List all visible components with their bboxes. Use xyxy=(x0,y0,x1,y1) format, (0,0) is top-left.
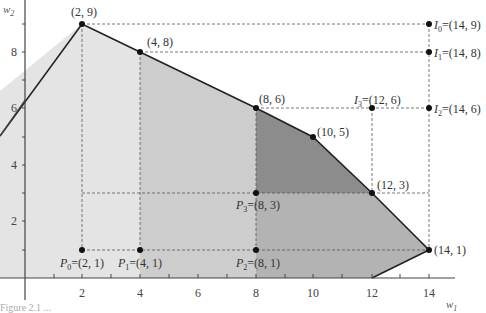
nadir-label-p2: P2=(8, 1) xyxy=(235,256,280,272)
y-tick-label: 6 xyxy=(11,101,17,115)
x-tick-label: 4 xyxy=(137,286,143,300)
ideal-label-i3: I3=(12, 6) xyxy=(353,93,401,109)
vertex-point xyxy=(369,190,375,196)
region-medium xyxy=(256,193,429,278)
region-lightest xyxy=(0,24,140,278)
vertex-label: (4, 8) xyxy=(147,35,173,49)
vertex-point xyxy=(137,49,143,55)
y-tick-label: 2 xyxy=(11,214,17,228)
x-tick-label: 12 xyxy=(366,286,378,300)
region-light xyxy=(140,52,256,278)
x-tick-label: 8 xyxy=(253,286,259,300)
nadir-point xyxy=(253,190,259,196)
ideal-point xyxy=(426,21,432,27)
x-tick-label: 14 xyxy=(423,286,435,300)
vertex-label: (12, 3) xyxy=(377,178,409,192)
y-tick-label: 4 xyxy=(11,158,17,172)
vertex-label: (10, 5) xyxy=(317,125,349,139)
vertex-label: (8, 6) xyxy=(259,92,285,106)
ideal-label-i0: I0=(14, 9) xyxy=(433,18,481,34)
vertex-label: (2, 9) xyxy=(71,5,97,19)
vertex-point xyxy=(426,247,432,253)
vertex-point xyxy=(310,134,316,140)
nadir-point xyxy=(79,247,85,253)
y-tick-label: 8 xyxy=(11,45,17,59)
nadir-point xyxy=(253,247,259,253)
x-axis-label: w1 xyxy=(446,298,457,313)
nadir-label-p3: P3=(8, 3) xyxy=(235,198,280,214)
x-tick-label: 6 xyxy=(195,286,201,300)
x-tick-label: 10 xyxy=(307,286,319,300)
ideal-point xyxy=(426,49,432,55)
nadir-label-p1: P1=(4, 1) xyxy=(117,256,162,272)
figure-caption: Figure 2.1 ... xyxy=(0,302,51,313)
x-tick-label: 2 xyxy=(79,286,85,300)
ideal-label-i1: I1=(14, 8) xyxy=(433,46,481,62)
vertex-point xyxy=(79,21,85,27)
y-axis-label: w2 xyxy=(3,3,14,18)
vertex-label: (14, 1) xyxy=(434,243,466,257)
nadir-point xyxy=(137,247,143,253)
pareto-diagram: 2 4 6 8 10 12 14 2 4 6 8 w2 w1 (2, 9) (4… xyxy=(0,0,486,313)
ideal-point xyxy=(426,105,432,111)
region-dark xyxy=(256,108,372,193)
ideal-label-i2: I2=(14, 6) xyxy=(433,102,481,118)
nadir-label-p0: P0=(2, 1) xyxy=(59,256,104,272)
